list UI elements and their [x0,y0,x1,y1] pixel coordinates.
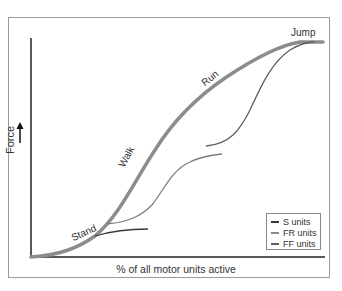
legend-swatch-fr [271,232,279,234]
legend-swatch-ff [271,243,279,245]
chart-legend: S units FR units FF units [266,213,321,250]
legend-item-fr-units: FR units [271,227,320,238]
x-axis-label: % of all motor units active [0,263,342,275]
legend-swatch-s [271,221,279,223]
legend-label: S units [283,217,311,227]
legend-label: FF units [283,239,316,249]
up-arrow-icon [15,122,25,144]
legend-item-s-units: S units [271,216,320,227]
legend-item-ff-units: FF units [271,238,320,249]
label-jump: Jump [291,27,315,38]
legend-label: FR units [283,228,317,238]
